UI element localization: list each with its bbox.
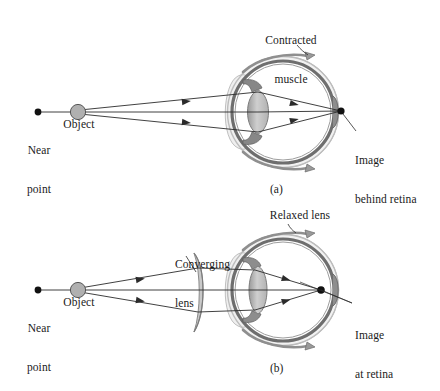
near-point-dot-a [35,109,42,116]
near-point-line1-b: Near [8,322,70,335]
panel-tag-a: (a) [270,183,283,195]
relaxed-lens-label: Relaxed lens [252,209,348,222]
converging-lens-line1: Converging [175,258,251,271]
contracted-muscle-label: Contracted muscle [239,8,343,112]
image-at-retina-line1: Image [355,329,437,342]
contracted-muscle-line2: muscle [239,73,343,86]
converging-lens-line2: lens [175,297,251,310]
converging-lens-label: Converging lens [175,232,251,336]
near-point-line2-b: point [8,361,70,374]
image-at-retina-label: Image at retina [355,303,437,391]
near-point-label-a: Near point [8,118,70,222]
image-behind-retina-line2: behind retina [355,193,440,206]
contracted-muscle-line1: Contracted [239,34,343,47]
figure-root: Near point Object Contracted muscle Imag… [0,0,440,391]
image-behind-retina-line1: Image [355,154,440,167]
image-behind-retina-label: Image behind retina [355,128,440,232]
near-point-dot-b [35,287,42,294]
near-point-label-b: Near point [8,296,70,391]
near-point-line1-a: Near [8,144,70,157]
image-at-retina-line2: at retina [355,368,437,381]
near-point-line2-a: point [8,183,70,196]
panel-tag-b: (b) [270,362,283,374]
object-label-a: Object [52,118,106,131]
object-label-b: Object [52,296,106,309]
